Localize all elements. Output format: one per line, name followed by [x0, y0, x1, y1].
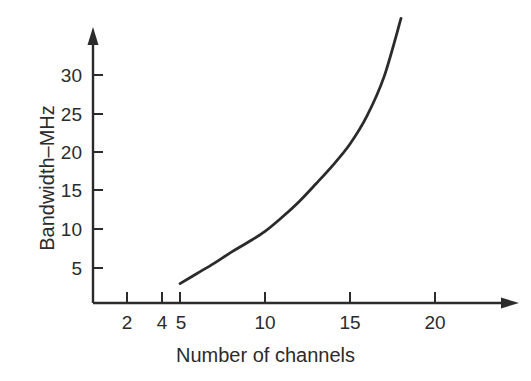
x-axis-ticks [127, 292, 435, 303]
x-tick-label-5: 5 [176, 313, 187, 332]
bandwidth-vs-channels-chart: 30 25 20 15 10 5 2 4 5 10 15 20 Bandwidt… [0, 0, 531, 381]
x-tick-label-2: 2 [122, 313, 133, 332]
bandwidth-curve [180, 18, 401, 283]
axes [88, 27, 520, 309]
x-tick-label-15: 15 [339, 313, 360, 332]
x-tick-label-20: 20 [424, 313, 445, 332]
x-tick-label-4: 4 [157, 313, 168, 332]
x-axis-arrow-icon [501, 298, 519, 309]
y-axis-ticks [93, 75, 103, 268]
x-tick-label-10: 10 [254, 313, 275, 332]
y-axis-title: Bandwidth–MHz [37, 68, 57, 288]
y-axis-arrow-icon [88, 27, 99, 45]
x-axis-title: Number of channels [0, 345, 531, 365]
